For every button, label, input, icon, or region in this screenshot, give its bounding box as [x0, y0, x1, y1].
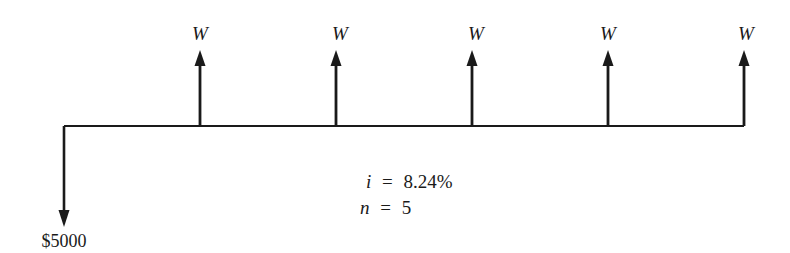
- periods-label: n = 5: [360, 197, 411, 218]
- inflow-arrow-1: [195, 50, 206, 126]
- inflow-label-1: W: [192, 23, 210, 44]
- cash-flow-diagram: $5000 W W W W W i = 8.24% n = 5: [0, 0, 790, 253]
- inflow-arrow-2: [331, 50, 342, 126]
- outflow-amount-label: $5000: [42, 231, 87, 251]
- inflow-label-3: W: [468, 23, 486, 44]
- inflow-label-5: W: [738, 23, 756, 44]
- inflow-label-4: W: [600, 23, 618, 44]
- interest-rate-label: i = 8.24%: [366, 171, 453, 192]
- inflow-arrow-4: [603, 50, 614, 126]
- inflow-arrow-3: [467, 50, 478, 126]
- outflow-arrow: [59, 126, 70, 227]
- inflow-arrow-5: [739, 50, 750, 126]
- inflow-label-2: W: [332, 23, 350, 44]
